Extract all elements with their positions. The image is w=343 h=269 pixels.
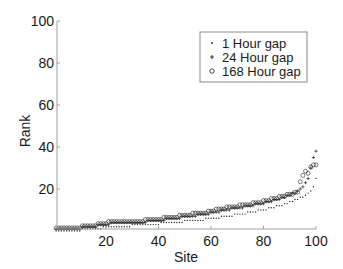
data-point: [273, 207, 274, 208]
data-point: [300, 197, 301, 198]
data-point: [168, 222, 169, 223]
data-point: [247, 211, 248, 212]
data-point: [304, 181, 307, 184]
data-point: [281, 205, 282, 206]
data-point: [192, 220, 193, 221]
data-point: [124, 226, 125, 227]
data-point: [218, 218, 219, 219]
y-tick-label: 20: [38, 181, 54, 197]
x-tick-label: 40: [151, 233, 167, 249]
x-tick-label: 20: [98, 233, 114, 249]
data-point: [315, 178, 316, 179]
data-point: [166, 222, 167, 223]
y-ticks: 20406080100: [31, 13, 60, 197]
y-tick-label: 80: [38, 55, 54, 71]
data-point: [294, 199, 295, 200]
data-point: [176, 222, 177, 223]
data-point: [314, 163, 318, 167]
y-tick-label: 100: [31, 13, 55, 29]
data-point: [258, 209, 259, 210]
series-24-hour-gap: [55, 150, 318, 231]
data-point: [205, 218, 206, 219]
data-point: [279, 205, 280, 206]
x-tick-label: 80: [256, 233, 272, 249]
data-point: [155, 224, 156, 225]
data-point: [310, 190, 311, 191]
legend-label: 24 Hour gap: [222, 50, 294, 65]
y-tick-label: 60: [38, 97, 54, 113]
data-point: [302, 197, 303, 198]
data-point: [197, 220, 198, 221]
data-point: [312, 156, 315, 159]
legend-item-168-hour-gap: 168 Hour gap: [210, 64, 301, 79]
data-point: [158, 224, 159, 225]
data-point: [237, 213, 238, 214]
data-point: [171, 222, 172, 223]
data-point: [242, 213, 243, 214]
data-point: [305, 195, 306, 196]
data-point: [150, 224, 151, 225]
data-point: [184, 220, 185, 221]
data-point: [301, 185, 304, 188]
data-point: [116, 226, 117, 227]
data-point: [297, 199, 298, 200]
data-point: [226, 216, 227, 217]
data-point: [147, 224, 148, 225]
data-point: [260, 209, 261, 210]
data-point: [174, 222, 175, 223]
data-point: [223, 216, 224, 217]
legend-item-24-hour-gap: 24 Hour gap: [210, 50, 294, 65]
scatter-chart: 20406080100 20406080100 Rank Site 1 Hour…: [0, 0, 343, 269]
data-point: [210, 218, 211, 219]
y-axis-label: Rank: [17, 114, 33, 148]
data-point: [239, 213, 240, 214]
data-point: [153, 224, 154, 225]
x-tick-label: 60: [203, 233, 219, 249]
data-point: [216, 218, 217, 219]
y-tick-label: 40: [38, 139, 54, 155]
data-point: [229, 216, 230, 217]
data-point: [113, 226, 114, 227]
data-point: [276, 205, 277, 206]
data-point: [189, 220, 190, 221]
data-point: [306, 171, 310, 175]
data-point: [221, 216, 222, 217]
data-point: [213, 218, 214, 219]
data-point: [121, 226, 122, 227]
data-point: [301, 173, 305, 177]
data-point: [299, 187, 302, 190]
series-1-hour-gap: [55, 178, 316, 232]
data-point: [202, 220, 203, 221]
data-point: [265, 209, 266, 210]
legend-label: 168 Hour gap: [222, 64, 301, 79]
legend-label: 1 Hour gap: [222, 36, 286, 51]
data-markers: [54, 150, 318, 232]
data-point: [292, 201, 293, 202]
data-point: [250, 211, 251, 212]
data-point: [200, 220, 201, 221]
data-point: [304, 169, 308, 173]
data-point: [244, 213, 245, 214]
data-point: [126, 226, 127, 227]
data-point: [234, 213, 235, 214]
data-point: [313, 186, 314, 187]
x-tick-label: 100: [304, 233, 328, 249]
data-point: [307, 192, 308, 193]
data-point: [252, 211, 253, 212]
data-point: [289, 201, 290, 202]
data-point: [298, 180, 302, 184]
plot-svg: 20406080100 20406080100 Rank Site 1 Hour…: [0, 0, 343, 269]
x-axis-label: Site: [174, 249, 198, 265]
data-point: [284, 203, 285, 204]
data-point: [307, 177, 310, 180]
data-point: [111, 226, 112, 227]
data-point: [181, 222, 182, 223]
data-point: [271, 207, 272, 208]
series-168-hour-gap: [54, 163, 318, 230]
data-point: [314, 150, 317, 153]
data-point: [263, 209, 264, 210]
data-point: [129, 226, 130, 227]
data-point: [268, 207, 269, 208]
data-point: [286, 203, 287, 204]
legend: 1 Hour gap 24 Hour gap 168 Hour gap: [200, 32, 307, 82]
